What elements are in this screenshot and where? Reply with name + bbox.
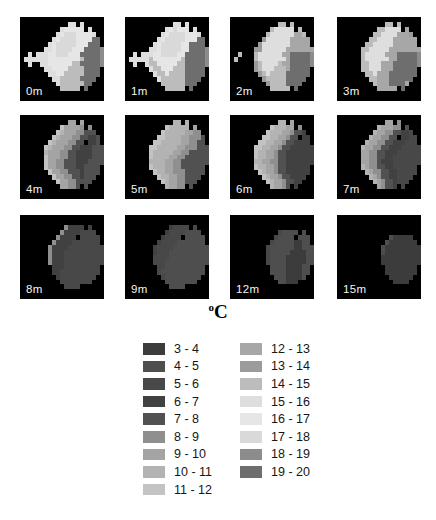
- depth-label: 8m: [26, 283, 43, 295]
- legend-swatch: [143, 396, 165, 408]
- legend-range-label: 5 - 6: [174, 377, 199, 391]
- legend-range-label: 17 - 18: [271, 430, 310, 444]
- legend-row: 15 - 16: [240, 393, 310, 411]
- depth-label: 4m: [26, 183, 43, 195]
- depth-label: 15m: [343, 283, 366, 295]
- legend-row: 6 - 7: [143, 393, 212, 411]
- legend-row: 13 - 14: [240, 358, 310, 376]
- legend-swatch: [143, 431, 165, 443]
- legend-row: 14 - 15: [240, 375, 310, 393]
- depth-panel-3m: 3m: [337, 17, 421, 101]
- legend-swatch: [143, 361, 165, 373]
- legend-range-label: 13 - 14: [271, 359, 310, 373]
- depth-label: 7m: [343, 183, 360, 195]
- depth-label: 3m: [343, 85, 360, 97]
- legend-row: 12 - 13: [240, 340, 310, 358]
- legend-row: 5 - 6: [143, 375, 212, 393]
- legend-swatch: [143, 449, 165, 461]
- legend-swatch: [240, 413, 262, 425]
- legend-range-label: 3 - 4: [174, 342, 199, 356]
- legend-row: 9 - 10: [143, 446, 212, 464]
- depth-label: 5m: [131, 183, 148, 195]
- legend-range-label: 7 - 8: [174, 412, 199, 426]
- depth-panel-8m: 8m: [20, 215, 104, 299]
- depth-panel-4m: 4m: [20, 115, 104, 199]
- depth-panel-1m: 1m: [125, 17, 209, 101]
- depth-panel-9m: 9m: [125, 215, 209, 299]
- depth-panel-15m: 15m: [337, 215, 421, 299]
- depth-label: 1m: [131, 85, 148, 97]
- legend-range-label: 4 - 5: [174, 359, 199, 373]
- depth-panel-6m: 6m: [230, 115, 314, 199]
- legend-title: oC: [0, 301, 436, 323]
- legend-range-label: 6 - 7: [174, 395, 199, 409]
- legend-range-label: 11 - 12: [174, 483, 212, 497]
- legend-swatch: [240, 449, 262, 461]
- depth-panel-0m: 0m: [20, 17, 104, 101]
- depth-panel-7m: 7m: [337, 115, 421, 199]
- depth-label: 9m: [131, 283, 148, 295]
- legend-range-label: 19 - 20: [271, 465, 310, 479]
- legend-row: 7 - 8: [143, 410, 212, 428]
- lake-temperature-depth-figure: 0m1m2m3m4m5m6m7m8m9m12m15m oC 3 - 44 - 5…: [0, 0, 436, 520]
- depth-label: 2m: [236, 85, 253, 97]
- depth-label: 6m: [236, 183, 253, 195]
- legend-row: 18 - 19: [240, 446, 310, 464]
- legend-swatch: [143, 413, 165, 425]
- legend-range-label: 12 - 13: [271, 342, 310, 356]
- legend-row: 8 - 9: [143, 428, 212, 446]
- depth-label: 0m: [26, 85, 43, 97]
- legend-swatch: [240, 396, 262, 408]
- legend-range-label: 14 - 15: [271, 377, 310, 391]
- legend-swatch: [143, 343, 165, 355]
- legend-range-label: 18 - 19: [271, 447, 310, 461]
- depth-label: 12m: [236, 283, 259, 295]
- legend-row: 11 - 12: [143, 481, 212, 499]
- legend-title-unit: C: [214, 301, 228, 322]
- legend-swatch: [240, 361, 262, 373]
- legend-swatch: [240, 466, 262, 478]
- legend-row: 4 - 5: [143, 358, 212, 376]
- legend-swatch: [143, 484, 165, 496]
- legend-row: 16 - 17: [240, 410, 310, 428]
- legend-column-right: 12 - 1313 - 1414 - 1515 - 1616 - 1717 - …: [240, 340, 310, 481]
- depth-panel-5m: 5m: [125, 115, 209, 199]
- legend-row: 3 - 4: [143, 340, 212, 358]
- depth-panel-2m: 2m: [230, 17, 314, 101]
- legend-range-label: 9 - 10: [174, 447, 206, 461]
- legend-range-label: 16 - 17: [271, 412, 310, 426]
- legend-swatch: [240, 343, 262, 355]
- depth-panel-12m: 12m: [230, 215, 314, 299]
- legend-row: 17 - 18: [240, 428, 310, 446]
- legend-range-label: 8 - 9: [174, 430, 199, 444]
- legend-range-label: 15 - 16: [271, 395, 310, 409]
- legend-column-left: 3 - 44 - 55 - 66 - 77 - 88 - 99 - 1010 -…: [143, 340, 212, 498]
- legend-swatch: [143, 466, 165, 478]
- legend-row: 10 - 11: [143, 463, 212, 481]
- legend-swatch: [143, 378, 165, 390]
- legend-range-label: 10 - 11: [174, 465, 212, 479]
- legend-swatch: [240, 378, 262, 390]
- legend-swatch: [240, 431, 262, 443]
- legend-row: 19 - 20: [240, 463, 310, 481]
